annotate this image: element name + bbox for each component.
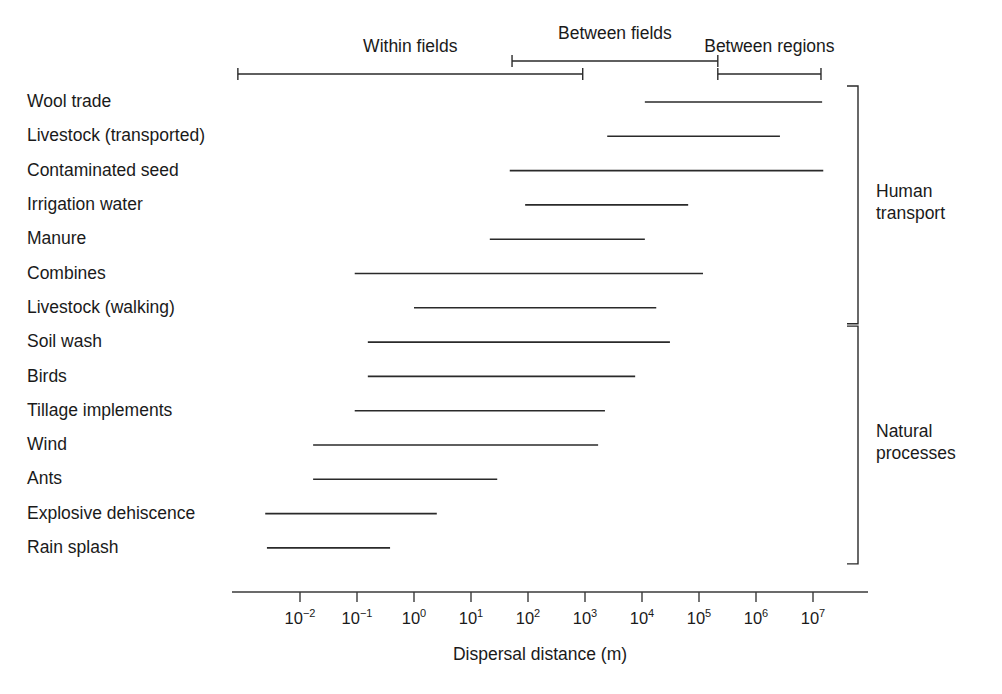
row-label: Contaminated seed <box>27 160 179 180</box>
x-axis-tick-label: 10−1 <box>342 607 373 627</box>
x-axis-tick-label: 104 <box>630 607 654 627</box>
scale-bar-3: Between regions <box>704 36 835 80</box>
range-bars-group <box>265 102 823 548</box>
row-label: Ants <box>27 468 62 488</box>
x-axis-tick-label: 107 <box>801 607 825 627</box>
x-axis-title: Dispersal distance (m) <box>453 644 627 664</box>
x-axis-tick-label: 100 <box>402 607 426 627</box>
row-label: Tillage implements <box>27 400 172 420</box>
group-bracket: Humantransport <box>847 86 945 324</box>
scale-bar-label: Between fields <box>558 23 672 43</box>
group-label-line2: processes <box>876 443 956 463</box>
row-labels-group: Wool tradeLivestock (transported)Contami… <box>27 91 205 557</box>
row-label: Livestock (walking) <box>27 297 175 317</box>
group-label-line2: transport <box>876 203 945 223</box>
group-label-line1: Natural <box>876 421 932 441</box>
x-axis-tick-label: 101 <box>459 607 483 627</box>
scale-bar-1: Within fields <box>238 36 583 80</box>
x-axis-tick-label: 103 <box>573 607 597 627</box>
scale-bar-label: Between regions <box>704 36 835 56</box>
x-axis-tick-label: 10−2 <box>285 607 316 627</box>
row-label: Irrigation water <box>27 194 143 214</box>
row-label: Birds <box>27 366 67 386</box>
group-brackets: HumantransportNaturalprocesses <box>847 86 956 564</box>
row-label: Livestock (transported) <box>27 125 205 145</box>
row-label: Combines <box>27 263 106 283</box>
dispersal-distance-chart: Within fieldsBetween fieldsBetween regio… <box>0 0 1002 694</box>
scale-bar-group: Within fieldsBetween fieldsBetween regio… <box>238 23 835 80</box>
chart-canvas: Within fieldsBetween fieldsBetween regio… <box>0 0 1002 694</box>
x-axis-tick-label: 106 <box>744 607 768 627</box>
row-label: Manure <box>27 228 86 248</box>
bracket-path <box>847 86 858 324</box>
scale-bar-2: Between fields <box>512 23 718 67</box>
row-label: Wind <box>27 434 67 454</box>
row-label: Explosive dehiscence <box>27 503 195 523</box>
group-bracket: Naturalprocesses <box>847 326 956 564</box>
bracket-path <box>847 326 858 564</box>
row-label: Wool trade <box>27 91 111 111</box>
group-label-line1: Human <box>876 181 932 201</box>
x-axis-tick-label: 102 <box>516 607 540 627</box>
x-axis-ticks: 10−210−1100101102103104105106107 <box>285 592 826 627</box>
x-axis-tick-label: 105 <box>687 607 711 627</box>
row-label: Rain splash <box>27 537 118 557</box>
scale-bar-label: Within fields <box>363 36 458 56</box>
row-label: Soil wash <box>27 331 102 351</box>
